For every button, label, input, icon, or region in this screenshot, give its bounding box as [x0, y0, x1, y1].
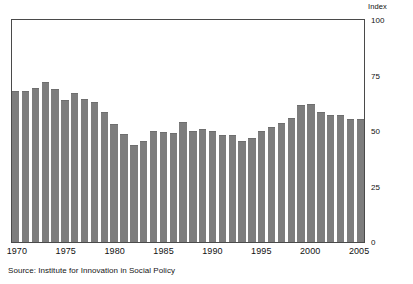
bar	[110, 124, 117, 242]
source-note: Source: Institute for Innovation in Soci…	[8, 266, 175, 275]
bar	[160, 132, 167, 242]
bar	[42, 82, 49, 242]
bar	[199, 129, 206, 242]
x-tick-label: 1980	[104, 246, 124, 256]
bar	[347, 119, 354, 242]
x-tick-label: 1970	[7, 246, 27, 256]
bar	[327, 115, 334, 242]
bar	[170, 133, 177, 242]
bar	[130, 145, 137, 242]
bar	[32, 88, 39, 242]
bar	[317, 112, 324, 242]
bar-series	[12, 20, 364, 242]
y-tick-label: 25	[371, 182, 380, 191]
bar	[248, 138, 255, 242]
bar	[209, 131, 216, 242]
x-tick-label: 2005	[349, 246, 369, 256]
bar	[71, 93, 78, 242]
y-tick-label: 100	[371, 16, 385, 25]
bar	[51, 89, 58, 242]
bar	[278, 123, 285, 242]
bar	[238, 141, 245, 242]
x-tick-label: 1985	[153, 246, 173, 256]
bar	[297, 105, 304, 242]
bar	[91, 102, 98, 242]
y-tick-label: 50	[371, 127, 380, 136]
x-tick-label: 2000	[300, 246, 320, 256]
x-tick-label: 1990	[202, 246, 222, 256]
bar	[22, 91, 29, 242]
y-tick-label: 0	[371, 238, 376, 247]
bar	[140, 141, 147, 242]
bar	[307, 104, 314, 242]
bar	[288, 118, 295, 242]
bar	[101, 112, 108, 242]
bar	[12, 91, 19, 242]
bar	[337, 115, 344, 242]
bar	[81, 99, 88, 242]
bar	[150, 131, 157, 242]
bar	[258, 131, 265, 242]
bar	[219, 135, 226, 242]
bar	[189, 131, 196, 242]
y-axis-title: Index	[368, 2, 387, 11]
chart-figure: Index 1007550250 19701975198019851990199…	[0, 0, 413, 284]
x-tick-label: 1975	[56, 246, 76, 256]
x-tick-label: 1995	[251, 246, 271, 256]
bar	[179, 122, 186, 242]
bar	[120, 134, 127, 242]
y-tick-label: 75	[371, 71, 380, 80]
bar	[61, 100, 68, 242]
bar	[229, 135, 236, 242]
bar	[268, 127, 275, 242]
bar	[357, 119, 364, 242]
